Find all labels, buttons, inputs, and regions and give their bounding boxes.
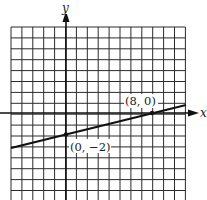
point-label-0-neg2: (0, −2) [70,140,111,154]
y-axis-label: y [61,1,69,15]
x-axis [0,110,199,117]
point-0-neg2 [64,132,68,136]
y-axis [63,11,70,200]
point-8-0 [150,111,154,115]
coordinate-graph: y x (0, −2) (8, 0) [0,0,207,200]
x-axis-label: x [200,106,207,120]
x-axis-arrow-icon [188,110,199,117]
point-label-8-0: (8, 0) [125,94,156,108]
